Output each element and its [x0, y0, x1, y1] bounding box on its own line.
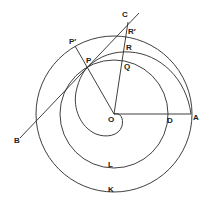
- spiral-diagram: C R′ R Q P′ P O D A B L K: [0, 0, 209, 206]
- label-p: P: [86, 56, 92, 65]
- label-o: O: [108, 115, 114, 124]
- label-l: L: [108, 160, 113, 169]
- label-d: D: [167, 116, 173, 125]
- label-k: K: [108, 185, 114, 194]
- label-c: C: [122, 10, 128, 19]
- tangent-line-bc: [20, 13, 139, 138]
- label-q: Q: [124, 62, 130, 71]
- label-r: R: [126, 43, 132, 52]
- line-op-prime: [75, 46, 114, 114]
- label-p-prime: P′: [69, 37, 76, 46]
- label-b: B: [14, 136, 20, 145]
- label-a: A: [193, 113, 199, 122]
- label-r-prime: R′: [128, 27, 136, 36]
